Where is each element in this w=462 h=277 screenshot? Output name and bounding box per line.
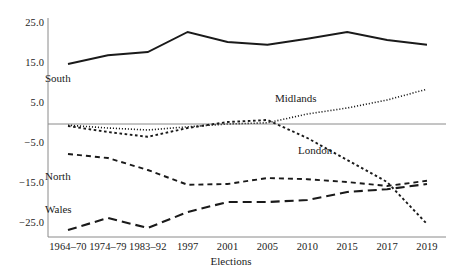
y-tick-label: 15.0: [0, 57, 44, 68]
x-tick-label: 1974–79: [89, 241, 126, 252]
x-axis-title: Elections: [211, 255, 252, 267]
series-line-london: [68, 120, 427, 224]
y-tick-label: 5.0: [0, 97, 44, 108]
y-tick-label: −5.0: [0, 137, 44, 148]
series-label-wales: Wales: [45, 203, 72, 215]
chart-plot-area: [0, 0, 462, 277]
series-line-south: [68, 32, 427, 64]
x-tick-label: 1983–92: [129, 241, 166, 252]
y-tick-label: −25.0: [0, 217, 44, 228]
series-label-north: North: [45, 170, 71, 182]
x-tick-label: 1964–70: [49, 241, 86, 252]
x-tick-label: 2015: [337, 241, 358, 252]
x-tick-label: 1997: [177, 241, 198, 252]
series-label-midlands: Midlands: [275, 92, 317, 104]
series-line-north: [68, 154, 427, 186]
x-tick-label: 2005: [257, 241, 278, 252]
x-tick-label: 2017: [376, 241, 397, 252]
series-label-south: South: [45, 72, 71, 84]
x-tick-label: 2001: [217, 241, 238, 252]
x-tick-label: 2010: [297, 241, 318, 252]
y-tick-label: −15.0: [0, 177, 44, 188]
series-label-london: London: [298, 144, 332, 156]
line-chart: 25.015.05.0−5.0−15.0−25.0 1964–701974–79…: [0, 0, 462, 277]
chart-series-layer: [68, 32, 427, 230]
x-tick-label: 2019: [416, 241, 437, 252]
series-line-wales: [68, 184, 427, 230]
y-tick-label: 25.0: [0, 17, 44, 28]
